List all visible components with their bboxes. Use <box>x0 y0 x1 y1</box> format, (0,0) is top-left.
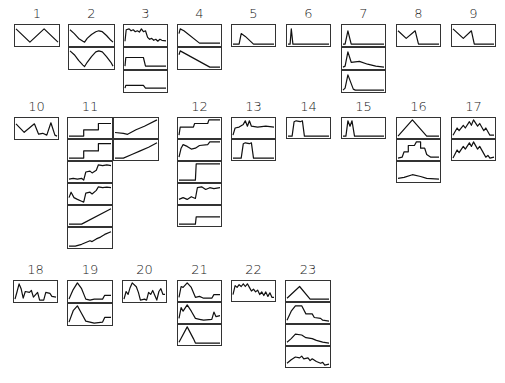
group-number-label: 4 <box>177 6 222 21</box>
waveform-panel <box>177 205 222 227</box>
waveform-panel <box>123 47 168 70</box>
group-number-label: 14 <box>286 99 331 114</box>
waveform-panel <box>67 161 113 183</box>
group-number-label: 22 <box>231 262 276 277</box>
waveform-panel <box>231 280 276 302</box>
group-number-label: 6 <box>286 6 331 21</box>
waveform-panel <box>231 24 276 47</box>
waveform-panel <box>67 139 113 161</box>
waveform-panel <box>68 24 115 47</box>
waveform-panel <box>123 24 168 47</box>
waveform-panel <box>396 117 441 139</box>
waveform-panel <box>113 117 159 139</box>
waveform-panel <box>177 24 222 47</box>
waveform-panel <box>14 24 60 47</box>
waveform-panel <box>122 280 167 303</box>
waveform-panel <box>67 280 113 303</box>
group-number-label: 8 <box>396 6 441 21</box>
waveform-panel <box>14 117 59 140</box>
group-number-label: 17 <box>451 99 496 114</box>
waveform-panel <box>285 302 331 324</box>
waveform-panel <box>67 117 113 139</box>
waveform-panel <box>177 47 222 70</box>
waveform-panel <box>67 183 113 205</box>
waveform-panel <box>451 139 496 161</box>
waveform-panel <box>231 117 276 139</box>
group-number-label: 13 <box>231 99 276 114</box>
waveform-panel <box>177 139 222 161</box>
group-number-label: 16 <box>396 99 441 114</box>
waveform-panel <box>341 117 386 139</box>
group-number-label: 21 <box>177 262 222 277</box>
waveform-panel <box>67 205 113 227</box>
group-number-label: 7 <box>341 6 386 21</box>
group-number-label: 18 <box>13 262 58 277</box>
waveform-panel <box>285 280 331 302</box>
waveform-panel <box>451 117 496 139</box>
group-number-label: 9 <box>451 6 496 21</box>
waveform-panel <box>177 280 222 302</box>
group-number-label: 19 <box>67 262 113 277</box>
group-number-label: 11 <box>67 99 113 114</box>
waveform-panel <box>285 324 331 346</box>
group-number-label: 23 <box>285 262 331 277</box>
group-number-label: 5 <box>231 6 276 21</box>
waveform-panel <box>67 303 113 326</box>
group-number-label: 12 <box>177 99 222 114</box>
group-number-label: 1 <box>14 6 60 21</box>
waveform-panel <box>13 280 58 303</box>
waveform-panel <box>451 24 496 47</box>
waveform-panel <box>177 324 222 346</box>
waveform-panel <box>285 346 331 368</box>
waveform-panel <box>177 161 222 183</box>
waveform-panel <box>396 161 441 183</box>
waveform-panel <box>396 24 441 47</box>
group-number-label: 15 <box>341 99 386 114</box>
waveform-panel <box>341 24 386 47</box>
group-number-label: 10 <box>14 99 59 114</box>
group-number-label: 3 <box>123 6 168 21</box>
waveform-panel <box>113 139 159 161</box>
waveform-panel <box>341 70 386 93</box>
waveform-panel <box>286 24 331 47</box>
waveform-panel <box>123 70 168 93</box>
waveform-panel <box>67 227 113 249</box>
waveform-panel <box>341 47 386 70</box>
group-number-label: 2 <box>68 6 115 21</box>
waveform-panel <box>68 47 115 70</box>
waveform-panel <box>286 117 331 139</box>
waveform-panel <box>177 183 222 205</box>
waveform-panel <box>177 117 222 139</box>
waveform-panel <box>231 139 276 161</box>
waveform-panel <box>396 139 441 161</box>
waveform-panel <box>177 302 222 324</box>
group-number-label: 20 <box>122 262 167 277</box>
